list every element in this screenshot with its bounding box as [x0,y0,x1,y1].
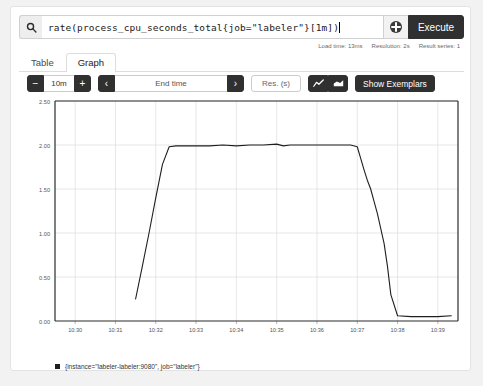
query-expression-input[interactable]: rate(process_cpu_seconds_total{job="labe… [42,15,383,39]
svg-text:10:30: 10:30 [68,327,82,333]
metrics-explorer-button[interactable] [383,15,408,39]
tab-table[interactable]: Table [19,53,66,72]
range-input[interactable]: 10m [44,75,74,92]
legend-series-label: {instance="labeler-labeler:9080", job="l… [65,363,200,370]
resolution-stat: Resolution: 2s [372,43,410,49]
graph-svg: 0.000.501.001.502.002.5010:3010:3110:321… [19,95,464,347]
resolution-input[interactable]: Res. (s) [251,75,301,92]
graph-legend[interactable]: {instance="labeler-labeler:9080", job="l… [55,363,200,370]
svg-text:2.50: 2.50 [39,99,50,105]
svg-text:10:32: 10:32 [149,327,163,333]
range-control-group: − 10m + [27,75,91,92]
end-time-input[interactable]: End time [115,75,227,92]
result-view-tabs: Table Graph [19,51,464,72]
result-series-stat: Result series: 1 [419,43,460,49]
svg-text:0.00: 0.00 [39,319,50,325]
svg-text:10:33: 10:33 [189,327,203,333]
chart-type-toggle-group [308,75,348,92]
graph-area[interactable]: 0.000.501.001.502.002.5010:3010:3110:321… [19,95,464,347]
query-panel-card: rate(process_cpu_seconds_total{job="labe… [10,6,471,371]
svg-text:10:31: 10:31 [108,327,122,333]
show-exemplars-button[interactable]: Show Exemplars [355,75,435,92]
graph-controls-toolbar: − 10m + ‹ End time › Res. (s) [27,75,435,92]
query-stats: Load time: 13ms Resolution: 2s Result se… [318,43,460,49]
query-expression-text: rate(process_cpu_seconds_total{job="labe… [48,22,339,33]
svg-text:10:34: 10:34 [229,327,243,333]
svg-text:10:39: 10:39 [431,327,445,333]
stacked-chart-icon[interactable] [328,75,348,92]
svg-text:10:36: 10:36 [310,327,324,333]
decrease-range-button[interactable]: − [27,75,44,92]
svg-text:0.50: 0.50 [39,275,50,281]
svg-text:1.50: 1.50 [39,187,50,193]
line-chart-icon[interactable] [308,75,328,92]
end-time-control-group: ‹ End time › [98,75,244,92]
next-time-button[interactable]: › [227,75,244,92]
tab-graph[interactable]: Graph [66,53,116,72]
search-icon [19,15,42,39]
globe-icon [390,21,402,33]
increase-range-button[interactable]: + [74,75,91,92]
svg-text:1.00: 1.00 [39,231,50,237]
execute-button[interactable]: Execute [408,15,464,39]
previous-time-button[interactable]: ‹ [98,75,115,92]
query-input-group: rate(process_cpu_seconds_total{job="labe… [19,15,464,39]
svg-text:10:35: 10:35 [270,327,284,333]
text-cursor [339,22,340,33]
svg-text:10:37: 10:37 [350,327,364,333]
svg-text:2.00: 2.00 [39,143,50,149]
load-time-stat: Load time: 13ms [318,43,362,49]
svg-text:10:38: 10:38 [391,327,405,333]
legend-color-swatch [55,364,60,369]
prometheus-graph-page: rate(process_cpu_seconds_total{job="labe… [0,0,483,386]
